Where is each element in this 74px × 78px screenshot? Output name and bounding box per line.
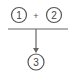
node-3-label: 3 — [33, 57, 39, 68]
node-3: 3 — [28, 54, 44, 70]
combination-diagram: 1 + 2 3 — [0, 0, 74, 78]
arrow-down-icon — [33, 48, 39, 53]
node-2-label: 2 — [51, 10, 57, 21]
node-1-label: 1 — [16, 10, 22, 21]
plus-operator: + — [33, 11, 38, 21]
node-1: 1 — [12, 8, 27, 23]
node-2: 2 — [47, 8, 62, 23]
